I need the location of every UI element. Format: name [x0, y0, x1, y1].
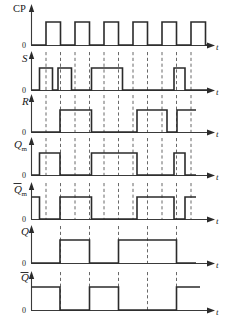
- value-axis-arrow-q: [29, 225, 34, 233]
- waveform-row-qm: Q m 0 t: [14, 137, 219, 182]
- zero-label-q-bar: 0: [22, 306, 26, 315]
- gridlines-qm: [46, 138, 191, 175]
- gridlines-qm-bar: [46, 183, 191, 219]
- signal-sublabel-qm: m: [22, 145, 28, 153]
- time-axis-arrow-r: [207, 130, 215, 136]
- value-axis-arrow-qm-bar: [29, 182, 34, 190]
- timing-diagram-figure: CP 0 t S 0 t: [0, 0, 231, 327]
- gridlines-s: [46, 52, 191, 90]
- timing-diagram-svg: CP 0 t S 0 t: [0, 0, 231, 327]
- time-axis-label-qm: t: [216, 172, 219, 182]
- zero-label-qm: 0: [22, 171, 26, 180]
- time-axis-label-q-bar: t: [216, 307, 219, 317]
- value-axis-arrow-r: [29, 94, 34, 102]
- value-axis-arrow-qm: [29, 137, 34, 145]
- signal-label-cp: CP: [13, 3, 26, 14]
- zero-label-s: 0: [22, 86, 26, 95]
- waveform-row-s: S 0 t: [22, 51, 219, 97]
- time-axis-label-s: t: [216, 87, 219, 97]
- zero-label-cp: 0: [22, 41, 26, 50]
- time-axis-label-cp: t: [216, 42, 219, 52]
- waveform-row-r: R 0 t: [21, 94, 219, 139]
- time-axis-label-r: t: [216, 129, 219, 139]
- time-axis-arrow-qm: [207, 173, 215, 179]
- waveform-s: [32, 68, 210, 90]
- zero-label-q: 0: [22, 259, 26, 268]
- time-axis-arrow-qm-bar: [207, 217, 215, 223]
- value-axis-arrow-cp: [29, 4, 34, 12]
- value-axis-arrow-s: [29, 51, 34, 59]
- signal-label-r: R: [21, 95, 29, 107]
- signal-sublabel-qm-bar: m: [22, 190, 28, 198]
- signal-label-s: S: [22, 52, 28, 64]
- waveform-q: [32, 240, 197, 263]
- waveform-qm: [32, 153, 197, 175]
- time-axis-label-qm-bar: t: [216, 216, 219, 226]
- time-axis-arrow-q-bar: [207, 308, 215, 314]
- gridlines-r: [46, 95, 191, 132]
- zero-label-qm-bar: 0: [22, 215, 26, 224]
- signal-label-q: Q: [21, 225, 29, 237]
- waveform-row-q: Q 0 t: [21, 225, 219, 270]
- signal-label-q-bar: Q: [21, 271, 29, 283]
- waveform-cp: [32, 22, 210, 45]
- waveform-r: [32, 110, 197, 132]
- waveform-q-bar: [32, 287, 201, 310]
- waveform-qm-bar: [32, 197, 197, 219]
- waveform-row-qm-bar: Q m 0 t: [14, 182, 220, 226]
- waveform-row-cp: CP 0 t: [13, 3, 219, 52]
- waveform-row-q-bar: Q 0 t: [21, 271, 220, 317]
- value-axis-arrow-q-bar: [29, 271, 34, 279]
- zero-label-r: 0: [22, 128, 26, 137]
- time-axis-arrow-q: [207, 261, 215, 267]
- time-axis-label-q: t: [216, 260, 219, 270]
